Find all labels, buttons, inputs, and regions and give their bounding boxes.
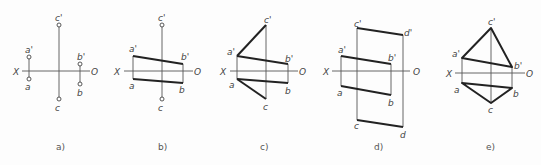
label-a-prime: a' [452,49,460,59]
edge-a-b [341,86,391,95]
axis-label-o: O [526,69,533,79]
label-a: a [25,82,31,92]
axis-label-o: O [413,67,420,77]
label-b: b [388,98,394,108]
axis-label-o: O [299,67,306,77]
edge-a-prime-c-prime [237,25,266,56]
caption-d: d) [374,142,383,152]
label-c-prime: c' [488,17,495,27]
panel-e: X O c' c a' a b' b e) [445,17,533,152]
label-c-prime: c' [55,13,62,23]
point-a [27,77,31,81]
caption-e: e) [486,142,495,152]
edge-c-d [357,120,403,127]
axis-label-x: X [219,67,227,77]
label-a: a [337,88,343,98]
label-d-prime: d' [404,28,412,38]
point-c [160,97,164,101]
label-c-prime: c' [158,13,165,23]
axis-label-o: O [194,67,201,77]
label-b-prime: b' [77,52,85,62]
triangle-top-view [462,83,512,103]
label-a: a [454,85,460,95]
label-b-prime: b' [514,61,522,71]
label-a-prime: a' [338,45,346,55]
edge-a-prime-b-prime [133,56,183,64]
axis-label-x: X [445,69,453,79]
triangle-front-view [462,28,512,67]
label-c-prime: c' [264,15,271,25]
panel-b: X O c' c a' a b' b b) [113,13,201,152]
edge-a-prime-b-prime [237,56,288,64]
label-b: b [179,85,185,95]
point-c [57,97,61,101]
panel-d: X O c' d' c d a' a b' b d) [322,19,420,152]
label-a-prime: a' [129,44,137,54]
axis-label-x: X [12,67,20,77]
caption-c: c) [260,142,268,152]
label-c-prime: c' [354,19,361,29]
label-a: a [129,81,135,91]
caption-a: a) [56,142,65,152]
projection-figure: X O c' c a' a b' b a) X O c' c a' a b' b… [0,0,541,165]
label-a-prime: a' [227,47,235,57]
caption-b: b) [158,142,167,152]
axis-label-x: X [322,67,330,77]
label-c: c [263,102,268,112]
label-b-prime: b' [388,53,396,63]
axis-label-o: O [91,67,98,77]
edge-a-c [237,79,266,99]
label-b-prime: b' [181,52,189,62]
point-b-prime [78,62,82,66]
label-b: b [77,88,83,98]
edge-a-b [237,79,288,83]
point-b [78,82,82,86]
label-c: c [158,103,163,113]
panel-c: X O c' c a' a b' b c) [219,15,306,152]
axis-label-x: X [113,67,121,77]
label-b: b [285,86,291,96]
label-d: d [400,130,406,140]
point-a-prime [27,55,31,59]
panel-a: X O c' c a' a b' b a) [12,13,98,152]
label-a: a [229,80,235,90]
edge-c-prime-d-prime [357,28,403,35]
label-c: c [354,121,359,131]
edge-a-b [133,79,183,83]
label-c: c [488,105,493,115]
point-c-prime [160,23,164,27]
point-c-prime [57,23,61,27]
label-c: c [55,103,60,113]
label-a-prime: a' [25,45,33,55]
label-b-prime: b' [285,54,293,64]
label-b: b [513,89,519,99]
edge-a-prime-b-prime [341,56,391,64]
